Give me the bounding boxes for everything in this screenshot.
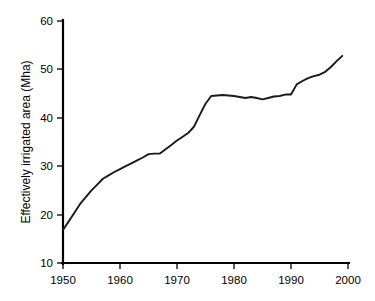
chart-figure: 60 50 40 30 20 10 Effectively irrigated …: [0, 0, 375, 301]
x-tick-label-1990: 1990: [278, 274, 304, 286]
chart-background: [0, 0, 375, 301]
x-tick-label-2000: 2000: [335, 274, 361, 286]
y-tick-label-50: 50: [40, 63, 53, 75]
y-tick-label-30: 30: [40, 160, 53, 172]
y-tick-label-60: 60: [40, 15, 53, 27]
y-axis-title: Effectively irrigated area (Mha): [19, 60, 33, 223]
x-tick-label-1980: 1980: [221, 274, 247, 286]
y-tick-label-20: 20: [40, 209, 53, 221]
x-tick-label-1960: 1960: [107, 274, 133, 286]
x-tick-label-1950: 1950: [50, 274, 76, 286]
y-tick-label-40: 40: [40, 112, 53, 124]
line-chart: 60 50 40 30 20 10 Effectively irrigated …: [0, 0, 375, 301]
x-tick-label-1970: 1970: [164, 274, 190, 286]
y-tick-label-10: 10: [40, 257, 53, 269]
